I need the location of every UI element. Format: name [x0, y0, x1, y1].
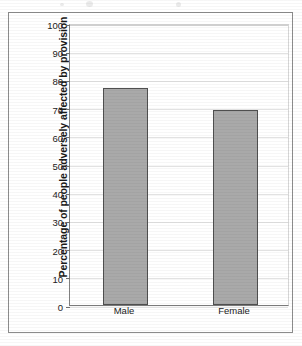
gridline-0	[70, 307, 288, 308]
y-tick-mark-60	[66, 137, 70, 138]
y-tick-label-80: 80	[52, 76, 63, 87]
x-category-label-male: Male	[114, 305, 135, 316]
scan-artifact	[0, 0, 302, 10]
bar-male[interactable]	[103, 88, 148, 305]
plot-area: 0102030405060708090100	[69, 24, 289, 306]
y-tick-label-10: 10	[52, 273, 63, 284]
y-tick-mark-90	[66, 53, 70, 54]
gridline-100	[70, 25, 288, 26]
gridline-80	[70, 81, 288, 82]
y-tick-label-100: 100	[47, 20, 63, 31]
y-tick-mark-10	[66, 278, 70, 279]
gridline-90	[70, 53, 288, 54]
x-category-label-female: Female	[218, 305, 250, 316]
y-tick-mark-40	[66, 194, 70, 195]
y-tick-label-90: 90	[52, 48, 63, 59]
y-tick-mark-70	[66, 109, 70, 110]
chart-frame: Percentage of people adversely affected …	[8, 12, 293, 333]
y-tick-label-0: 0	[58, 302, 63, 313]
y-tick-label-30: 30	[52, 217, 63, 228]
y-tick-mark-0	[66, 307, 70, 308]
bar-female[interactable]	[213, 110, 258, 305]
y-tick-label-20: 20	[52, 245, 63, 256]
y-tick-label-40: 40	[52, 189, 63, 200]
y-tick-mark-50	[66, 166, 70, 167]
y-tick-label-70: 70	[52, 104, 63, 115]
y-tick-mark-100	[66, 25, 70, 26]
y-tick-label-60: 60	[52, 132, 63, 143]
y-tick-mark-20	[66, 250, 70, 251]
y-tick-mark-30	[66, 222, 70, 223]
y-tick-mark-80	[66, 81, 70, 82]
y-tick-label-50: 50	[52, 161, 63, 172]
